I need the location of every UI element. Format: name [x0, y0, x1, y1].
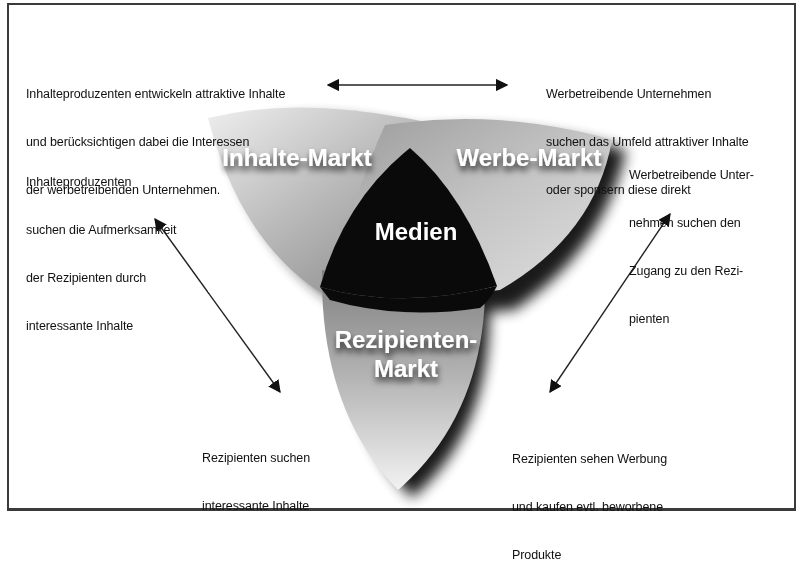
annotation-line: Inhalteproduzenten	[26, 174, 176, 190]
annotation-line: Produkte	[512, 547, 667, 563]
annotation-line: interessante Inhalte	[26, 318, 176, 334]
annotation-line: Werbetreibende Unternehmen	[546, 86, 749, 102]
annotation-line: Rezipienten suchen	[202, 450, 310, 466]
annotation-line: suchen die Aufmerksamkeit	[26, 222, 176, 238]
annotation-line: Werbetreibende Unter-	[629, 167, 754, 183]
annotation-bottom-right: Rezipienten sehen Werbung und kaufen evt…	[512, 419, 667, 563]
annotation-line: Rezipienten sehen Werbung	[512, 451, 667, 467]
label-medien: Medien	[375, 218, 458, 245]
annotation-line: Inhalteproduzenten entwickeln attraktive…	[26, 86, 285, 102]
annotation-line: Zugang zu den Rezi-	[629, 263, 754, 279]
label-rezipienten-markt-2: Markt	[374, 355, 438, 382]
label-rezipienten-markt-1: Rezipienten-	[335, 326, 478, 353]
annotation-line: nehmen suchen den	[629, 215, 754, 231]
annotation-line: interessante Inhalte	[202, 498, 310, 514]
annotation-mid-right: Werbetreibende Unter- nehmen suchen den …	[629, 135, 754, 343]
annotation-line: der Rezipienten durch	[26, 270, 176, 286]
annotation-line: pienten	[629, 311, 754, 327]
annotation-bottom-left: Rezipienten suchen interessante Inhalte	[202, 418, 310, 530]
annotation-line: und kaufen evtl. beworbene	[512, 499, 667, 515]
annotation-mid-left: Inhalteproduzenten suchen die Aufmerksam…	[26, 142, 176, 350]
